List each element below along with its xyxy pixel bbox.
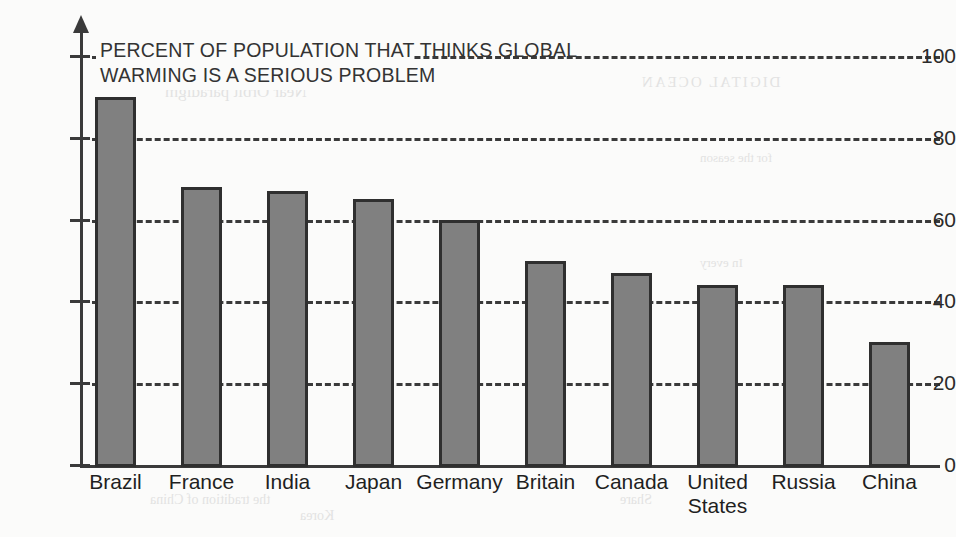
bar-chart: 020406080100 PERCENT OF POPULATION THAT … xyxy=(0,0,956,537)
bars-layer xyxy=(0,0,956,537)
bar-france[interactable] xyxy=(181,187,222,467)
bar-china[interactable] xyxy=(869,342,910,467)
bar-brazil[interactable] xyxy=(95,97,136,467)
bar-germany[interactable] xyxy=(439,220,480,467)
bar-united-states[interactable] xyxy=(697,285,738,467)
bar-india[interactable] xyxy=(267,191,308,467)
chart-screenshot: DIGITAL OCEAN Near Orbit paradigm for th… xyxy=(0,0,956,537)
bar-russia[interactable] xyxy=(783,285,824,467)
bar-japan[interactable] xyxy=(353,199,394,467)
bar-britain[interactable] xyxy=(525,261,566,468)
bar-canada[interactable] xyxy=(611,273,652,467)
